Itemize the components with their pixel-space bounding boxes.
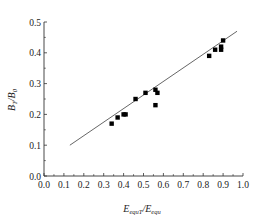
- data-point-marker: [153, 103, 157, 107]
- x-tick-label: 0.8: [197, 180, 209, 190]
- data-point-marker: [123, 112, 127, 116]
- x-tick-label: 0.3: [98, 180, 110, 190]
- x-tick-label: 0.9: [217, 180, 229, 190]
- y-tick-label: 0.1: [29, 141, 41, 151]
- data-point-marker: [115, 115, 119, 119]
- data-point-marker: [133, 97, 137, 101]
- data-point-marker: [219, 44, 223, 48]
- x-tick-label: 0.6: [157, 180, 169, 190]
- data-point-marker: [221, 38, 225, 42]
- x-tick-label: 0.5: [138, 180, 150, 190]
- x-axis-label: EequT/Eequ: [122, 203, 161, 215]
- x-tick-label: 1.0: [237, 180, 249, 190]
- x-tick-label: 0.4: [118, 180, 130, 190]
- data-point-marker: [143, 91, 147, 95]
- scatter-chart: 0.00.10.20.30.40.50.60.70.80.91.0 0.00.1…: [0, 0, 258, 221]
- axes: [44, 22, 243, 176]
- data-point-marker: [207, 54, 211, 58]
- y-tick-label: 0.3: [29, 79, 41, 89]
- y-axis-label: BT/B0: [6, 88, 18, 111]
- data-point-marker: [155, 91, 159, 95]
- x-tick-label: 0.0: [38, 180, 50, 190]
- y-tick-label: 0.5: [29, 18, 41, 28]
- x-tick-label: 0.7: [177, 180, 189, 190]
- y-tick-label: 0.2: [29, 110, 41, 120]
- y-tick-label: 0.0: [29, 172, 41, 182]
- y-tick-label: 0.4: [29, 48, 41, 58]
- data-point-marker: [213, 48, 217, 52]
- x-tick-label: 0.1: [58, 180, 70, 190]
- x-tick-label: 0.2: [78, 180, 90, 190]
- data-point-marker: [109, 121, 113, 125]
